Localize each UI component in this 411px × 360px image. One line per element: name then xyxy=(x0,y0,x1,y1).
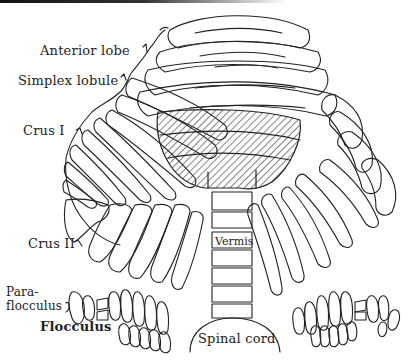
label-anterior-lobe: Anterior lobe xyxy=(40,43,130,58)
label-crus-ii: Crus II xyxy=(28,236,75,251)
label-spinal-cord: Spinal cord xyxy=(198,331,276,346)
anterior-lobe-folia xyxy=(138,16,337,116)
vermis-folia xyxy=(212,192,252,318)
right-flocculus xyxy=(311,322,357,347)
label-paraflocculus-line2: flocculus xyxy=(6,299,62,313)
label-crus-i: Crus I xyxy=(23,123,65,138)
label-simplex-lobule: Simplex lobule xyxy=(18,73,118,88)
hatched-region xyxy=(157,110,300,189)
label-flocculus: Flocculus xyxy=(40,319,112,334)
left-flocculus xyxy=(119,324,171,353)
label-vermis: Vermis xyxy=(215,235,253,248)
label-paraflocculus-line1: Para- xyxy=(6,285,39,299)
crus-ii-folia xyxy=(64,199,203,289)
